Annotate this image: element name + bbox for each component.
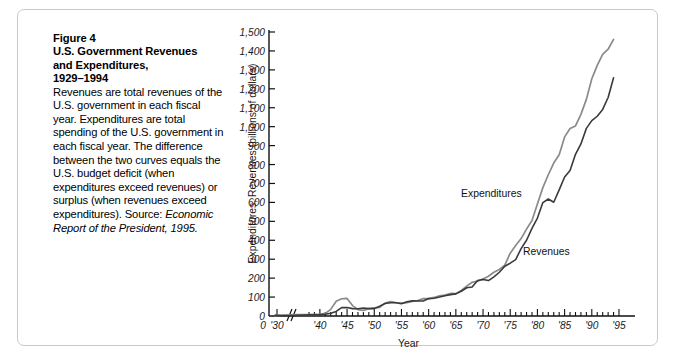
figure-title-line3: 1929–1994 [53, 72, 225, 85]
series-line-revenues [275, 78, 614, 316]
chart-area: Expenditures, Revenues (billions of doll… [223, 24, 663, 354]
series-label-revenues: Revenues [523, 246, 570, 257]
data-series [275, 39, 614, 315]
series-label-expenditures: Expenditures [461, 188, 522, 199]
series-line-expenditures [275, 39, 614, 315]
axes [269, 30, 635, 321]
plot-svg [223, 24, 663, 354]
figure-caption: Figure 4 U.S. Government Revenues and Ex… [53, 32, 225, 235]
caption-text: Revenues are total revenues of the U.S. … [53, 86, 223, 220]
figure-caption-body: Revenues are total revenues of the U.S. … [53, 86, 225, 236]
figure-title-line2: and Expenditures, [53, 59, 225, 72]
figure-number: Figure 4 [53, 32, 225, 45]
figure-frame: Figure 4 U.S. Government Revenues and Ex… [17, 9, 658, 346]
figure-title-line1: U.S. Government Revenues [53, 45, 225, 58]
